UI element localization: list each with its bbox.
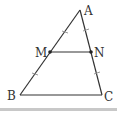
bottom-divider (0, 108, 117, 111)
point-n (89, 50, 93, 54)
tick-an (83, 29, 89, 31)
label-c: C (104, 90, 113, 104)
label-b: B (7, 89, 16, 103)
label-n: N (94, 46, 105, 60)
triangle-diagram: A B C M N (0, 0, 117, 113)
point-m (48, 50, 52, 54)
label-m: M (35, 46, 47, 60)
label-a: A (83, 4, 93, 18)
